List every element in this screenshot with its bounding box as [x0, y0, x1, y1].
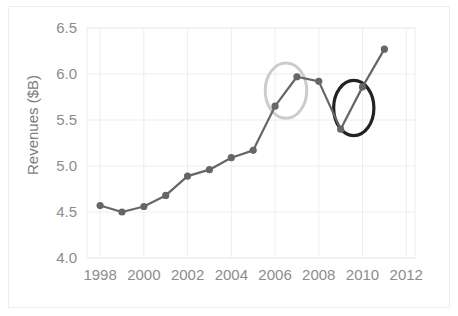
- x-tick-label: 2004: [215, 266, 248, 283]
- data-point: [162, 192, 169, 199]
- data-point: [381, 46, 388, 53]
- y-axis-title: Revenues ($B): [24, 75, 41, 175]
- y-axis-tick-labels: 4.04.55.05.56.06.5: [56, 19, 77, 266]
- data-point: [184, 173, 191, 180]
- data-point: [315, 78, 322, 85]
- revenues-line-chart: 4.04.55.05.56.06.5 199820002002200420062…: [0, 0, 458, 316]
- data-point: [337, 126, 344, 133]
- x-tick-label: 2000: [127, 266, 160, 283]
- y-tick-label: 6.0: [56, 65, 77, 82]
- y-tick-label: 4.0: [56, 249, 77, 266]
- y-tick-label: 5.0: [56, 157, 77, 174]
- data-point: [206, 166, 213, 173]
- data-point: [140, 203, 147, 210]
- x-tick-label: 2012: [390, 266, 423, 283]
- y-tick-label: 6.5: [56, 19, 77, 36]
- x-axis-tick-labels: 19982000200220042006200820102012: [83, 266, 423, 283]
- plot-area-background: [87, 28, 415, 258]
- data-point: [118, 208, 125, 215]
- chart-container: 4.04.55.05.56.06.5 199820002002200420062…: [0, 0, 458, 316]
- data-point: [293, 73, 300, 80]
- data-point: [228, 154, 235, 161]
- x-tick-label: 2002: [171, 266, 204, 283]
- x-tick-label: 1998: [83, 266, 116, 283]
- data-point: [359, 83, 366, 90]
- x-tick-label: 2006: [258, 266, 291, 283]
- y-tick-label: 4.5: [56, 203, 77, 220]
- data-point: [250, 147, 257, 154]
- y-tick-label: 5.5: [56, 111, 77, 128]
- x-tick-label: 2008: [302, 266, 335, 283]
- data-point: [271, 103, 278, 110]
- x-tick-label: 2010: [346, 266, 379, 283]
- data-point: [97, 202, 104, 209]
